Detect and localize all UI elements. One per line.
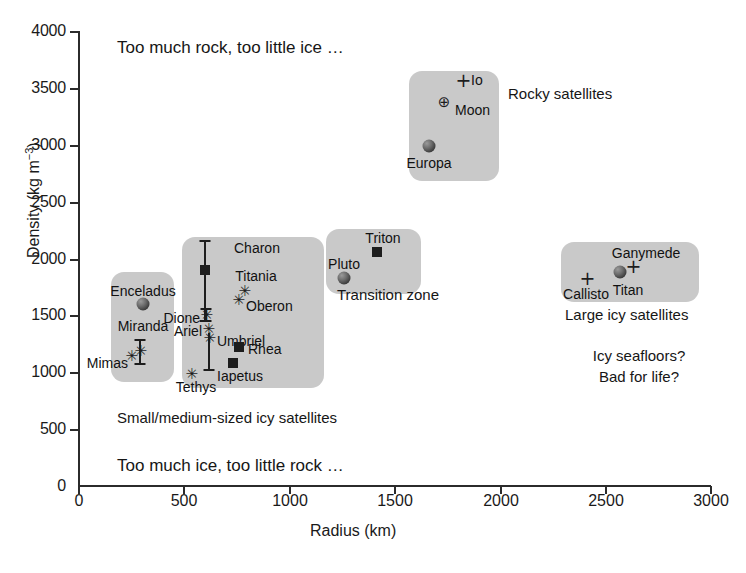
y-tick-label-1000: 1000 (31, 363, 66, 381)
data-point-iapetus[interactable] (228, 358, 238, 368)
error-bar-cap-charon-top (200, 240, 211, 242)
y-tick-4000 (70, 31, 78, 33)
y-tick-1500 (70, 315, 78, 317)
group-label-rocky-satellites: Rocky satellites (508, 85, 612, 102)
x-tick-label-3000: 3000 (693, 492, 729, 510)
data-point-titan[interactable] (614, 266, 627, 279)
point-label-iapetus: Iapetus (217, 368, 263, 384)
point-label-io: Io (471, 72, 483, 88)
group-label-large-icy-satellites: Large icy satellites (565, 306, 688, 323)
data-point-europa[interactable] (423, 140, 436, 153)
point-label-mimas: Mimas (87, 355, 128, 371)
annotation-icy-seafloors: Icy seafloors? (593, 347, 686, 364)
data-point-triton[interactable] (372, 247, 382, 257)
point-label-callisto: Callisto (563, 286, 609, 302)
point-label-ariel: Ariel (174, 323, 202, 339)
point-label-titan: Titan (613, 282, 644, 298)
x-tick-label-500: 500 (171, 492, 198, 510)
point-label-ganymede: Ganymede (612, 245, 680, 261)
point-label-miranda: Miranda (118, 318, 169, 334)
data-point-charon[interactable] (200, 265, 210, 275)
group-label-small-medium-icy-satellites: Small/medium-sized icy satellites (117, 409, 337, 426)
error-bar-cap-umbriel-bottom (204, 369, 215, 371)
annotation-too-much-ice: Too much ice, too little rock … (117, 456, 344, 476)
x-tick-label-1500: 1500 (377, 492, 413, 510)
y-tick-3000 (70, 145, 78, 147)
annotation-bad-for-life: Bad for life? (599, 368, 679, 385)
point-label-moon: Moon (455, 102, 490, 118)
group-label-transition-zone: Transition zone (337, 286, 439, 303)
data-point-oberon[interactable]: ✳ (233, 295, 244, 306)
data-point-pluto[interactable] (338, 272, 351, 285)
point-label-europa: Europa (406, 155, 451, 171)
y-tick-1000 (70, 372, 78, 374)
data-point-moon[interactable]: ⊕ (438, 96, 451, 109)
y-tick-500 (70, 429, 78, 431)
y-axis-title-exponent: −3 (23, 148, 35, 161)
y-tick-2000 (70, 259, 78, 261)
x-tick-label-0: 0 (75, 492, 84, 510)
x-tick-label-2500: 2500 (588, 492, 624, 510)
x-axis-title: Radius (km) (310, 522, 396, 540)
data-point-enceladus[interactable] (137, 298, 150, 311)
data-point-tethys[interactable]: ✳ (186, 369, 197, 380)
point-label-oberon: Oberon (246, 298, 293, 314)
annotation-too-much-rock: Too much rock, too little ice … (117, 38, 344, 58)
point-label-titania: Titania (235, 268, 277, 284)
y-axis-title: Density (kg m−3) (23, 105, 43, 295)
data-point-rhea[interactable] (234, 342, 244, 352)
point-label-triton: Triton (365, 230, 400, 246)
point-label-charon: Charon (234, 240, 280, 256)
y-tick-label-4000: 4000 (31, 22, 66, 40)
y-tick-2500 (70, 202, 78, 204)
point-label-rhea: Rhea (248, 341, 281, 357)
point-label-tethys: Tethys (176, 379, 216, 395)
data-point-ganymede[interactable]: + (626, 260, 639, 273)
y-tick-label-1500: 1500 (31, 306, 66, 324)
data-point-io[interactable]: + (456, 74, 469, 87)
y-axis-line (78, 31, 80, 486)
data-point-umbriel[interactable]: ✳ (204, 333, 215, 344)
x-tick-label-1000: 1000 (272, 492, 308, 510)
density-radius-scatter-chart: 4000 3500 3000 2500 2000 1500 1000 500 0… (0, 0, 746, 573)
data-point-callisto[interactable]: + (580, 272, 593, 285)
y-tick-label-500: 500 (40, 420, 66, 438)
y-axis-title-base: Density (kg m (25, 160, 42, 258)
y-tick-label-3500: 3500 (31, 79, 66, 97)
point-label-enceladus: Enceladus (110, 283, 175, 299)
y-tick-3500 (70, 88, 78, 90)
y-axis-title-close: ) (25, 142, 42, 147)
point-label-pluto: Pluto (328, 256, 360, 272)
x-tick-label-2000: 2000 (483, 492, 519, 510)
y-tick-label-0: 0 (57, 477, 66, 495)
